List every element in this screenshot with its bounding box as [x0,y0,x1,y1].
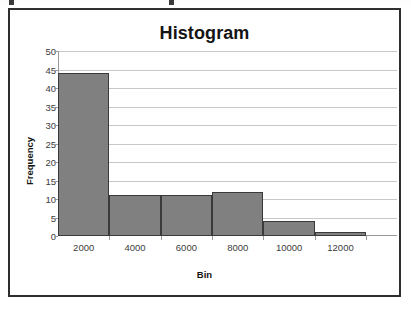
y-tick-label: 5 [30,212,56,223]
top-capture-artifact [0,0,411,7]
x-tick-mark [161,236,162,240]
y-tick-mark [54,144,58,145]
x-tick-mark [109,236,110,240]
y-tick-label: 0 [30,231,56,242]
x-tick-label: 2000 [73,242,94,253]
histogram-bar[interactable] [315,232,366,236]
y-axis-tick-labels: 05101520253035404550 [30,51,56,236]
y-tick-label: 25 [30,138,56,149]
y-tick-mark [54,125,58,126]
y-tick-mark [54,51,58,52]
x-axis-tick-labels: 20004000600080001000012000 [58,242,397,256]
y-tick-mark [54,199,58,200]
y-tick-label: 40 [30,83,56,94]
y-tick-label: 45 [30,64,56,75]
histogram-bar[interactable] [212,192,263,236]
x-tick-label: 4000 [124,242,145,253]
x-tick-mark [315,236,316,240]
artifact-marker-right [169,0,174,5]
x-tick-label: 6000 [176,242,197,253]
y-tick-mark [54,236,58,237]
x-tick-label: 8000 [227,242,248,253]
y-tick-mark [54,181,58,182]
y-tick-label: 35 [30,101,56,112]
histogram-bar[interactable] [263,221,314,236]
x-tick-mark [263,236,264,240]
y-tick-label: 20 [30,157,56,168]
y-tick-mark [54,88,58,89]
x-axis-title: Bin [10,269,399,280]
y-tick-mark [54,70,58,71]
plot-wrapper: Frequency 05101520253035404550 200040006… [10,10,399,295]
y-tick-mark [54,107,58,108]
histogram-bar[interactable] [109,195,160,236]
y-tick-label: 10 [30,194,56,205]
plot-area[interactable] [58,51,397,236]
x-tick-mark [366,236,367,240]
artifact-marker-left [9,0,14,5]
y-tick-mark [54,218,58,219]
y-tick-label: 15 [30,175,56,186]
x-tick-label: 12000 [327,242,353,253]
y-tick-label: 50 [30,46,56,57]
histogram-bar[interactable] [58,73,109,236]
histogram-bar[interactable] [161,195,212,236]
y-tick-mark [54,162,58,163]
histogram-chart-container[interactable]: Histogram Frequency 05101520253035404550… [8,8,401,297]
x-tick-label: 10000 [276,242,302,253]
bars-layer [58,51,397,236]
y-tick-label: 30 [30,120,56,131]
x-tick-mark [212,236,213,240]
